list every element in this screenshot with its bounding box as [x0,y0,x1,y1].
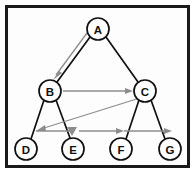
traversal-arrow-f-g [124,128,172,134]
nodes-group: A B C D E F [15,18,181,160]
traversal-arrow-f-g-head [164,128,172,134]
node-f-label: F [117,144,124,156]
tree-edge-b-d [31,100,44,139]
tree-diagram: A B C D E F [0,0,195,173]
node-b[interactable]: B [39,80,61,102]
traversal-arrow-c-d-line [44,97,143,128]
node-f[interactable]: F [110,138,132,160]
node-e-label: E [69,144,77,156]
traversal-arrow-a-b-line [56,33,87,75]
traversal-arrow-b-c [63,88,133,94]
node-a[interactable]: A [87,18,109,40]
traversal-arrow-e-f [79,128,124,134]
traversal-arrow-b-c-head [125,88,133,94]
node-b-label: B [46,86,54,98]
tree-edge-c-g [151,100,165,139]
node-c-label: C [141,86,149,98]
traversal-arrow-c-d-head [36,125,46,131]
node-c[interactable]: C [134,80,156,102]
node-d-label: D [22,144,30,156]
node-d[interactable]: D [15,138,37,160]
tree-edge-b-e [56,100,70,138]
node-g-label: G [166,144,175,156]
tree-edge-a-b [57,37,90,82]
traversal-arrow-a-b [53,33,87,80]
tree-edge-c-f [126,100,139,139]
node-e[interactable]: E [62,138,84,160]
traversal-arrow-e-f-head [116,128,124,134]
tree-edge-a-c [106,37,138,82]
node-g[interactable]: G [159,138,181,160]
diagram-canvas: A B C D E F [0,0,195,173]
node-a-label: A [94,24,102,36]
